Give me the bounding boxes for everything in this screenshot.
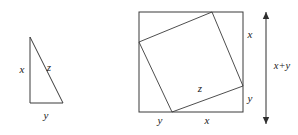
- square-label-x-bottom: x: [204, 114, 210, 126]
- inner-tilted-square-outline: [139, 12, 243, 112]
- square-label-x-right: x: [247, 28, 253, 40]
- arrow-head-up-icon: [263, 12, 269, 19]
- arrow-head-down-icon: [263, 117, 269, 124]
- triangle-label-y: y: [43, 109, 49, 121]
- dimension-arrow-group: x+y: [263, 12, 291, 124]
- inscribed-square-group: x y y x z: [139, 12, 253, 126]
- square-label-y-bottom: y: [157, 114, 163, 126]
- triangle-label-x: x: [19, 63, 25, 75]
- figure-canvas: x z y x y y x z x+y: [0, 0, 298, 135]
- geometry-figure: x z y x y y x z x+y: [0, 0, 298, 135]
- outer-square-outline: [139, 12, 243, 112]
- square-label-z: z: [197, 82, 203, 94]
- square-label-y-right: y: [247, 92, 253, 104]
- right-triangle-group: x z y: [19, 37, 63, 121]
- triangle-label-z: z: [46, 61, 52, 73]
- dimension-arrow-label: x+y: [273, 60, 291, 71]
